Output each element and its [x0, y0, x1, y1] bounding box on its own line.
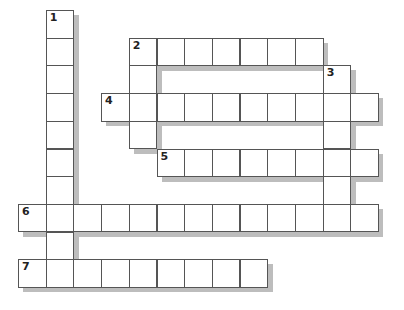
crossword-cell[interactable]	[267, 149, 296, 178]
crossword-cell[interactable]	[350, 149, 379, 178]
crossword-cell[interactable]	[323, 121, 352, 150]
crossword-cell[interactable]	[129, 204, 158, 233]
crossword-cell[interactable]	[157, 93, 186, 122]
crossword-cell[interactable]	[101, 204, 130, 233]
crossword-cell[interactable]	[129, 65, 158, 94]
crossword-cell[interactable]	[129, 93, 158, 122]
clue-number: 1	[50, 12, 58, 24]
crossword-cell[interactable]	[157, 259, 186, 288]
crossword-cell[interactable]	[240, 259, 269, 288]
crossword-cell[interactable]	[267, 38, 296, 67]
crossword-cell[interactable]	[240, 93, 269, 122]
crossword-cell[interactable]	[73, 204, 102, 233]
crossword-cell[interactable]	[212, 204, 241, 233]
crossword-cell[interactable]	[212, 38, 241, 67]
crossword-cell[interactable]	[46, 38, 75, 67]
clue-number: 7	[22, 261, 30, 273]
crossword-cell[interactable]	[101, 259, 130, 288]
crossword-cell[interactable]	[73, 259, 102, 288]
crossword-cell[interactable]	[350, 204, 379, 233]
crossword-cell[interactable]	[46, 149, 75, 178]
clue-number: 3	[327, 67, 335, 79]
crossword-cell[interactable]	[184, 259, 213, 288]
crossword-cell[interactable]	[350, 93, 379, 122]
crossword-cell[interactable]	[323, 93, 352, 122]
crossword-cell[interactable]	[184, 149, 213, 178]
crossword-cell[interactable]	[267, 93, 296, 122]
crossword-cell[interactable]: 6	[18, 204, 47, 233]
crossword-cell[interactable]	[46, 65, 75, 94]
crossword-cell[interactable]: 5	[157, 149, 186, 178]
crossword-cell[interactable]: 1	[46, 10, 75, 39]
crossword-cell[interactable]	[323, 176, 352, 205]
crossword-grid: 1234567	[0, 0, 404, 310]
crossword-cell[interactable]	[240, 204, 269, 233]
crossword-cell[interactable]	[267, 204, 296, 233]
crossword-cell[interactable]	[323, 149, 352, 178]
crossword-cell[interactable]	[212, 93, 241, 122]
crossword-cell[interactable]	[212, 259, 241, 288]
crossword-cell[interactable]	[46, 176, 75, 205]
crossword-cell[interactable]	[295, 149, 324, 178]
crossword-cell[interactable]	[129, 259, 158, 288]
crossword-cell[interactable]	[46, 93, 75, 122]
crossword-cell[interactable]	[240, 149, 269, 178]
crossword-cell[interactable]	[184, 93, 213, 122]
crossword-cell[interactable]: 7	[18, 259, 47, 288]
crossword-cell[interactable]	[295, 93, 324, 122]
crossword-cell[interactable]: 4	[101, 93, 130, 122]
crossword-cell[interactable]	[157, 204, 186, 233]
crossword-cell[interactable]	[240, 38, 269, 67]
crossword-cell[interactable]	[184, 38, 213, 67]
crossword-cell[interactable]	[295, 38, 324, 67]
clue-number: 4	[105, 95, 113, 107]
clue-number: 6	[22, 206, 30, 218]
crossword-cell[interactable]	[129, 121, 158, 150]
crossword-cell[interactable]: 3	[323, 65, 352, 94]
crossword-cell[interactable]	[46, 204, 75, 233]
crossword-cell[interactable]: 2	[129, 38, 158, 67]
crossword-cell[interactable]	[323, 204, 352, 233]
crossword-cell[interactable]	[184, 204, 213, 233]
crossword-cell[interactable]	[46, 232, 75, 261]
crossword-cell[interactable]	[46, 121, 75, 150]
crossword-cell[interactable]	[212, 149, 241, 178]
crossword-cell[interactable]	[157, 38, 186, 67]
crossword-cell[interactable]	[46, 259, 75, 288]
clue-number: 2	[133, 40, 141, 52]
clue-number: 5	[161, 151, 169, 163]
crossword-cell[interactable]	[295, 204, 324, 233]
